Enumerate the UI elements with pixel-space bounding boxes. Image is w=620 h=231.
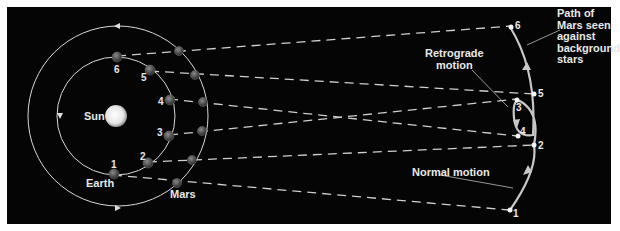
sky-num: 4	[520, 127, 526, 137]
earth-num: 4	[158, 97, 164, 107]
earth-num: 6	[114, 65, 120, 75]
retrograde-label: Retrograde motion	[425, 47, 484, 71]
earth-num: 2	[140, 152, 146, 162]
mars-positions	[173, 47, 208, 188]
path-pointer	[527, 30, 560, 45]
orbit-arrow-icon	[114, 23, 120, 29]
earth-label: Earth	[86, 177, 114, 189]
sun-icon	[105, 105, 127, 127]
direction-arrow-icon	[522, 62, 531, 70]
orbit-arrow-icon	[57, 113, 63, 119]
earth-num: 1	[111, 160, 117, 170]
sky-num: 5	[538, 89, 544, 99]
sun-label: Sun	[84, 110, 105, 122]
apparent-path	[510, 27, 536, 210]
sky-num: 1	[513, 209, 519, 219]
earth-num: 5	[141, 73, 147, 83]
path-note: Path of Mars seen against background sta…	[557, 8, 620, 66]
sky-num: 3	[516, 103, 522, 113]
mars-label: Mars	[170, 188, 196, 200]
normal-motion-label: Normal motion	[412, 166, 490, 178]
sky-num: 2	[538, 141, 544, 151]
sky-num: 6	[515, 21, 521, 31]
earth-num: 3	[157, 128, 163, 138]
